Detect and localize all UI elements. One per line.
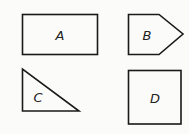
shape-a: A — [23, 15, 98, 55]
shape-c: C — [23, 69, 80, 111]
shape-a-label: A — [55, 28, 65, 43]
shape-d: D — [129, 71, 182, 125]
shape-b-label: B — [143, 28, 152, 43]
shape-b: B — [129, 15, 184, 55]
shape-d-label: D — [150, 91, 160, 106]
shapes-diagram: A B C D — [0, 0, 189, 134]
shape-c-label: C — [33, 90, 43, 105]
